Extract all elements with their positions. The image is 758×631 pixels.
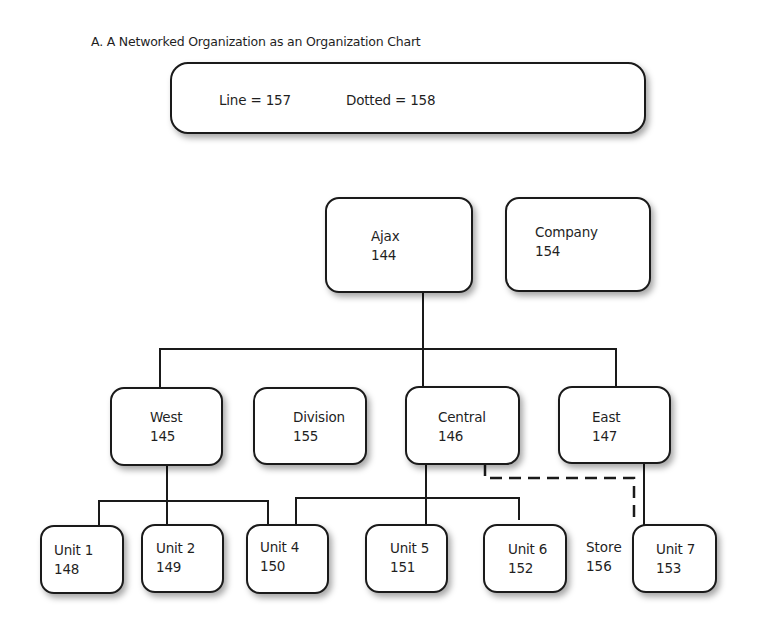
node-division[interactable]: Division 155 [253, 387, 367, 465]
node-name: Unit 5 [390, 539, 429, 558]
node-name: Division [293, 408, 345, 427]
node-number: 148 [54, 560, 93, 579]
node-east[interactable]: East 147 [558, 386, 671, 464]
node-name: Company [535, 223, 598, 242]
node-unit-6[interactable]: Unit 6 152 [483, 524, 567, 593]
node-name: Unit 7 [656, 540, 695, 559]
node-unit-7[interactable]: Unit 7 153 [632, 524, 717, 593]
node-unit-2[interactable]: Unit 2 149 [141, 524, 224, 593]
node-name: West [150, 408, 182, 427]
node-number: 146 [438, 427, 486, 446]
node-name: Unit 1 [54, 541, 93, 560]
node-name: Unit 2 [156, 539, 195, 558]
store-label: Store 156 [586, 538, 622, 576]
legend-line-label: Line = 157 [219, 92, 291, 108]
node-name: Unit 6 [508, 540, 547, 559]
node-company[interactable]: Company 154 [505, 197, 651, 292]
legend-box: Line = 157 Dotted = 158 [170, 62, 646, 134]
node-name: Ajax [371, 227, 399, 246]
store-name: Store [586, 538, 622, 557]
node-number: 153 [656, 559, 695, 578]
node-unit-4[interactable]: Unit 4 150 [246, 524, 329, 594]
node-number: 147 [592, 427, 620, 446]
node-number: 151 [390, 558, 429, 577]
node-central[interactable]: Central 146 [405, 386, 520, 465]
node-name: Unit 4 [260, 538, 299, 557]
node-number: 155 [293, 427, 345, 446]
node-name: Central [438, 408, 486, 427]
node-west[interactable]: West 145 [110, 387, 223, 466]
legend-dotted-label: Dotted = 158 [346, 92, 435, 108]
node-number: 152 [508, 559, 547, 578]
store-number: 156 [586, 557, 622, 576]
node-ajax[interactable]: Ajax 144 [325, 197, 473, 293]
node-number: 149 [156, 558, 195, 577]
node-number: 145 [150, 427, 182, 446]
node-number: 150 [260, 557, 299, 576]
node-unit-1[interactable]: Unit 1 148 [40, 525, 124, 594]
node-number: 154 [535, 242, 598, 261]
node-number: 144 [371, 246, 399, 265]
node-name: East [592, 408, 620, 427]
node-unit-5[interactable]: Unit 5 151 [365, 524, 448, 593]
